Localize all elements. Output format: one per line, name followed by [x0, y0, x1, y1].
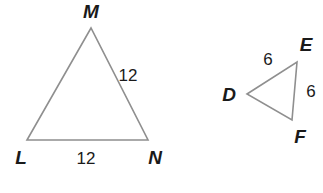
- vertex-label-m: M: [83, 1, 100, 22]
- triangle-lmn-group: M L N 12 12: [15, 1, 163, 168]
- triangle-def-outline: [247, 62, 297, 120]
- triangle-def-group: D E F 6 6: [222, 34, 316, 147]
- vertex-label-d: D: [222, 84, 236, 105]
- side-ln-length: 12: [77, 149, 96, 168]
- vertex-label-l: L: [15, 147, 27, 168]
- side-ef-length: 6: [306, 82, 315, 101]
- vertex-label-e: E: [300, 34, 314, 55]
- geometry-figure-canvas: M L N 12 12 D E F 6 6: [0, 0, 323, 193]
- vertex-label-f: F: [294, 126, 307, 147]
- side-de-length: 6: [263, 50, 272, 69]
- side-mn-length: 12: [119, 66, 138, 85]
- vertex-label-n: N: [148, 147, 163, 168]
- figure-svg: M L N 12 12 D E F 6 6: [0, 0, 323, 193]
